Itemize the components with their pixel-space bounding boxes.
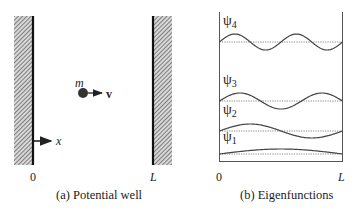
right-wall-position-label: L	[150, 171, 157, 183]
psi1-curve	[220, 149, 343, 154]
eigenfunctions-caption: (b) Eigenfunctions	[240, 189, 333, 202]
mass-label: m	[75, 77, 84, 89]
psi2-label: ψ2	[223, 103, 237, 119]
x-axis-label: x	[56, 135, 61, 147]
psi1-label: ψ1	[223, 130, 237, 146]
psi4-label: ψ4	[223, 14, 237, 30]
x-end-label: L	[338, 171, 345, 183]
left-wall-hatch	[14, 16, 33, 165]
right-wall-hatch	[154, 16, 172, 165]
psi3-label: ψ3	[223, 73, 237, 89]
psi3-curve	[220, 93, 343, 109]
psi2-curve	[220, 124, 343, 138]
psi4-curve	[220, 34, 343, 50]
velocity-label: v	[106, 88, 112, 100]
left-wall-position-label: 0	[30, 171, 36, 183]
x-start-label: 0	[216, 171, 222, 183]
eigenfunctions-panel	[220, 12, 343, 162]
potential-well-caption: (a) Potential well	[56, 189, 142, 202]
potential-well-panel	[14, 16, 172, 165]
diagram-canvas	[0, 0, 358, 211]
